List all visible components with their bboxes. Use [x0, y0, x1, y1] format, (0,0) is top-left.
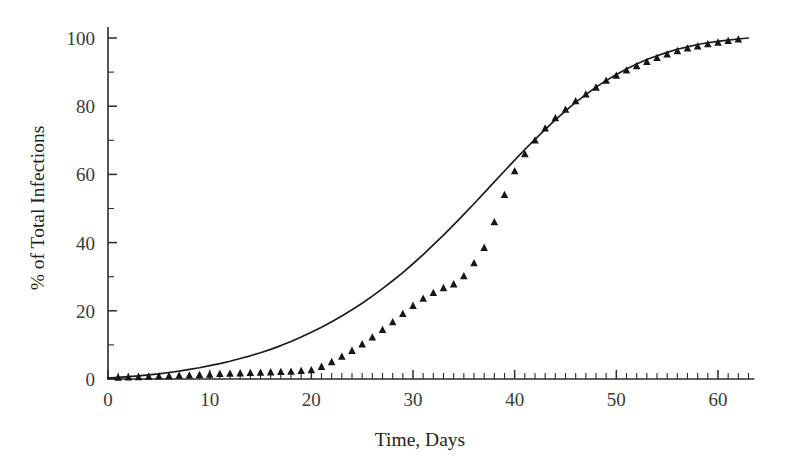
chart-plot-area: 0102030405060020406080100Time, Days% of … [27, 28, 754, 450]
data-point-marker [582, 90, 590, 97]
fitted-curve [108, 38, 749, 378]
data-point-marker [145, 373, 153, 380]
y-axis-title: % of Total Infections [27, 126, 48, 291]
data-point-marker [216, 370, 224, 377]
data-point-marker [460, 272, 468, 279]
data-point-marker [511, 167, 519, 174]
x-axis-tick-label: 30 [404, 389, 423, 410]
data-point-marker [338, 352, 346, 359]
data-point-marker [175, 371, 183, 378]
data-point-marker [247, 369, 255, 376]
y-axis-tick-label: 40 [76, 233, 95, 254]
data-point-marker [399, 310, 407, 317]
data-point-marker [491, 218, 499, 225]
data-point-marker [348, 347, 356, 354]
data-point-marker [308, 366, 316, 373]
data-point-marker [186, 371, 194, 378]
data-point-marker [480, 244, 488, 251]
data-point-marker [440, 284, 448, 291]
data-point-marker [297, 367, 305, 374]
x-axis-tick-label: 0 [103, 389, 113, 410]
chart-figure: 0102030405060020406080100Time, Days% of … [0, 0, 812, 464]
data-point-marker [369, 333, 377, 340]
data-point-marker [196, 371, 204, 378]
data-point-marker [226, 369, 234, 376]
data-point-marker [430, 289, 438, 296]
data-point-marker [358, 340, 366, 347]
x-axis-tick-label: 60 [709, 389, 728, 410]
x-axis-tick-label: 20 [302, 389, 321, 410]
y-axis-tick-label: 100 [67, 28, 96, 49]
data-point-marker [318, 363, 326, 370]
data-point-marker [379, 326, 387, 333]
data-point-marker [257, 368, 265, 375]
data-point-marker [267, 368, 275, 375]
data-point-marker [389, 318, 397, 325]
data-point-marker [501, 191, 509, 198]
y-axis-tick-label: 60 [76, 164, 95, 185]
data-point-marker [470, 259, 478, 266]
data-point-marker [328, 358, 336, 365]
y-axis-tick-label: 0 [86, 369, 96, 390]
data-point-marker [277, 368, 285, 375]
x-axis-tick-label: 40 [505, 389, 524, 410]
data-point-marker [206, 370, 214, 377]
y-axis-tick-label: 80 [76, 96, 95, 117]
data-point-marker [602, 77, 610, 84]
data-point-marker [236, 369, 244, 376]
data-point-marker [521, 150, 529, 157]
x-axis-tick-label: 50 [607, 389, 626, 410]
x-axis-tick-label: 10 [200, 389, 219, 410]
data-point-marker [419, 294, 427, 301]
x-axis-title: Time, Days [375, 429, 465, 450]
data-point-marker [287, 367, 295, 374]
data-point-marker [409, 302, 417, 309]
data-point-marker [450, 280, 458, 287]
y-axis-tick-label: 20 [76, 301, 95, 322]
infection-curve-chart: 0102030405060020406080100Time, Days% of … [0, 0, 812, 464]
